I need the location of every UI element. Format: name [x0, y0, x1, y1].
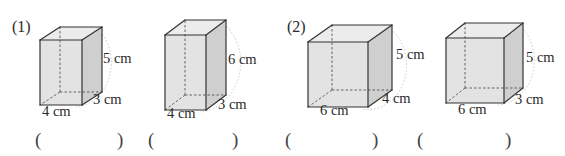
prism-1-height-label: 5 cm: [103, 50, 132, 66]
front-face: [308, 42, 368, 107]
answer-close-paren: ): [232, 129, 238, 151]
prism-4-height-label: 5 cm: [526, 49, 555, 65]
answer-blank-2[interactable]: ( ): [148, 129, 238, 151]
prism-4-depth-label: 3 cm: [515, 91, 544, 107]
prism-2-depth-label: 3 cm: [218, 96, 247, 112]
prism-3-depth-label: 4 cm: [382, 90, 411, 106]
front-face: [40, 40, 82, 105]
answer-open-paren: (: [417, 129, 423, 151]
diagram-canvas: (1) (2) 5 cm 3 cm 4 cm 6 cm 3 cm 4 cm 5 …: [0, 0, 565, 156]
prism-2-width-label: 4 cm: [167, 105, 196, 121]
question-number-1: (1): [12, 18, 31, 36]
question-number-2: (2): [287, 18, 306, 36]
prism-1-depth-label: 3 cm: [93, 91, 122, 107]
answer-close-paren: ): [117, 129, 123, 151]
prism-2-height-label: 6 cm: [228, 51, 257, 67]
answer-open-paren: (: [148, 129, 154, 151]
answer-open-paren: (: [285, 129, 291, 151]
prism-4-width-label: 6 cm: [458, 101, 487, 117]
answer-close-paren: ): [505, 129, 511, 151]
front-face: [446, 38, 504, 103]
answer-open-paren: (: [35, 129, 41, 151]
answer-blank-3[interactable]: ( ): [285, 129, 378, 151]
front-face: [165, 35, 206, 110]
answer-close-paren: ): [372, 129, 378, 151]
answer-blank-1[interactable]: ( ): [35, 129, 123, 151]
prism-3-width-label: 6 cm: [320, 102, 349, 118]
answer-blank-4[interactable]: ( ): [417, 129, 511, 151]
prism-3-height-label: 5 cm: [396, 46, 425, 62]
prism-1-width-label: 4 cm: [42, 103, 71, 119]
